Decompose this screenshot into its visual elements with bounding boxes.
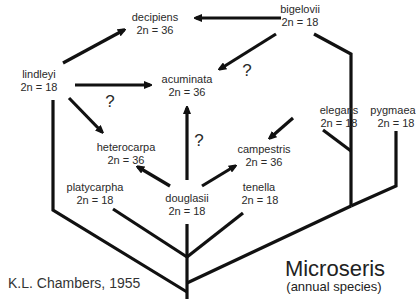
question-mark-lindleyi-acuminata: ? [105, 92, 114, 111]
species-platycarpha: platycarpha 2n = 18 [67, 181, 125, 206]
species-heterocarpa: heterocarpa 2n = 36 [97, 141, 157, 166]
species-name: tenella [243, 181, 276, 193]
arrow-douglasii-heterocarpa [138, 167, 170, 186]
species-name: acuminata [162, 73, 214, 85]
species-name: douglasii [165, 192, 208, 204]
chromosome-count: 2n = 36 [168, 86, 205, 98]
chromosome-count: 2n = 18 [168, 205, 205, 217]
chromosome-count: 2n = 36 [107, 154, 144, 166]
arrow-lindleyi-decipiens [63, 30, 124, 63]
branch-elegans [323, 130, 351, 151]
arrow-elegans-campestris [270, 118, 293, 138]
species-name: pygmaea [370, 104, 416, 116]
species-lindleyi: lindleyi 2n = 18 [20, 68, 57, 93]
species-name: heterocarpa [97, 141, 157, 153]
species-acuminata: acuminata 2n = 36 [162, 73, 214, 98]
species-elegans: elegans 2n = 18 [320, 104, 359, 129]
species-name: elegans [320, 104, 359, 116]
chromosome-count: 2n = 18 [76, 194, 113, 206]
branch-pygmaea [351, 131, 396, 206]
citation: K.L. Chambers, 1955 [8, 275, 141, 291]
arrow-douglasii-campestris [202, 166, 235, 186]
chromosome-count: 2n = 18 [241, 194, 278, 206]
phylogeny-diagram: ? ? ? decipiens 2n = 36 bigelovii 2n = 1… [0, 0, 416, 306]
species-decipiens: decipiens 2n = 36 [132, 11, 179, 36]
question-mark-douglasii-acuminata: ? [194, 131, 203, 150]
diagram-subtitle: (annual species) [286, 279, 381, 294]
chromosome-count: 2n = 18 [281, 16, 318, 28]
species-campestris: campestris 2n = 36 [237, 143, 291, 168]
species-name: lindleyi [22, 68, 56, 80]
species-name: campestris [237, 143, 291, 155]
species-pygmaea: pygmaea 2n = 18 [370, 104, 416, 129]
species-tenella: tenella 2n = 18 [241, 181, 278, 206]
chromosome-count: 2n = 36 [136, 24, 173, 36]
chromosome-count: 2n = 18 [377, 117, 414, 129]
arrow-lindleyi-heterocarpa [69, 98, 102, 132]
chromosome-count: 2n = 36 [245, 156, 282, 168]
question-mark-bigelovii-acuminata: ? [242, 61, 251, 80]
species-name: platycarpha [67, 181, 125, 193]
chromosome-count: 2n = 18 [320, 117, 357, 129]
branch-tenella [187, 213, 243, 257]
species-name: bigelovii [280, 3, 320, 15]
chromosome-count: 2n = 18 [20, 81, 57, 93]
species-douglasii: douglasii 2n = 18 [165, 192, 208, 217]
species-bigelovii: bigelovii 2n = 18 [280, 3, 320, 28]
diagram-title: Microseris [285, 256, 385, 281]
species-name: decipiens [132, 11, 179, 23]
